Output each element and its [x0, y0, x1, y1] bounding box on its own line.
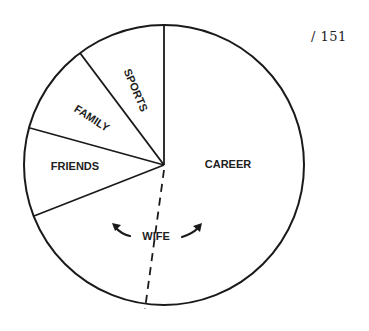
- label-career: CAREER: [205, 158, 252, 170]
- pie-chart: CAREER FRIENDS FAMILY SPORTS WIFE: [0, 0, 369, 331]
- label-wife: WIFE: [142, 230, 170, 242]
- label-friends: FRIENDS: [51, 160, 99, 172]
